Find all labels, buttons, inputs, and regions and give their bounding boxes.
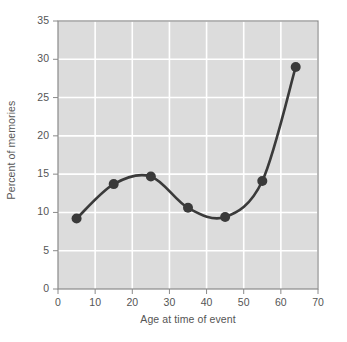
plot-background-group	[58, 21, 318, 289]
data-point-marker[interactable]	[146, 171, 156, 181]
data-point-marker[interactable]	[291, 62, 301, 72]
data-point-marker[interactable]	[72, 214, 82, 224]
plot-area	[0, 0, 347, 342]
data-point-marker[interactable]	[257, 176, 267, 186]
data-point-marker[interactable]	[220, 212, 230, 222]
data-point-marker[interactable]	[109, 179, 119, 189]
chart-figure: Percent of memories Age at time of event…	[0, 0, 347, 342]
data-point-marker[interactable]	[183, 203, 193, 213]
plot-background-rect	[58, 21, 318, 289]
